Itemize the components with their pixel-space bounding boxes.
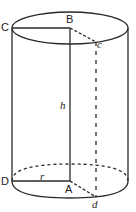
segment-Bc-dashed xyxy=(70,28,96,42)
label-A: A xyxy=(65,184,72,195)
label-C: C xyxy=(1,22,9,33)
cylinder-figure xyxy=(0,0,136,212)
label-B: B xyxy=(66,14,73,25)
label-c: c xyxy=(97,39,102,50)
label-D: D xyxy=(1,176,9,187)
label-h: h xyxy=(60,100,66,111)
label-r: r xyxy=(40,171,44,182)
cylinder-diagram: C B c h D r A d xyxy=(0,0,136,212)
label-d: d xyxy=(92,199,98,210)
segment-Ad-dashed xyxy=(70,181,96,197)
